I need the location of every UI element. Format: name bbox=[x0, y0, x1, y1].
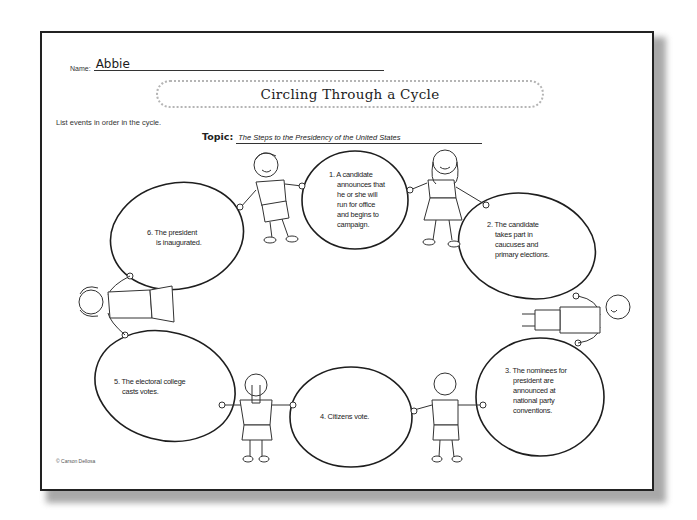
cycle-diagram bbox=[0, 0, 697, 520]
step-1-line: run for office bbox=[329, 200, 385, 210]
step-6-text: 6. The president is inaugurated. bbox=[147, 228, 201, 248]
step-2-line: primary elections. bbox=[487, 250, 549, 260]
step-3-line: announced at bbox=[505, 386, 567, 396]
step-5-line: casts votes. bbox=[114, 387, 185, 397]
step-4-line: 4. Citizens vote. bbox=[320, 412, 369, 422]
step-2-text: 2. The candidate takes part in caucuses … bbox=[487, 220, 549, 260]
boy-figure-bottom-right bbox=[411, 373, 486, 462]
step-1-line: announces that bbox=[329, 180, 385, 190]
step-3-line: conventions. bbox=[505, 406, 567, 416]
step-3-text: 3. The nominees for president are announ… bbox=[505, 366, 567, 416]
girl-figure-top-right bbox=[407, 150, 489, 247]
step-1-line: 1. A candidate bbox=[329, 170, 385, 180]
step-6-line: is inaugurated. bbox=[147, 238, 201, 248]
girl-figure-bottom-left bbox=[219, 374, 296, 462]
step-4-text: 4. Citizens vote. bbox=[320, 412, 369, 422]
step-2-line: caucuses and bbox=[487, 240, 549, 250]
step-6-line: 6. The president bbox=[147, 228, 201, 238]
step-2-line: 2. The candidate bbox=[487, 220, 549, 230]
step-5-line: 5. The electoral college bbox=[114, 377, 185, 387]
step-3-line: 3. The nominees for bbox=[505, 366, 567, 376]
copyright: © Carson Dellosa bbox=[56, 458, 95, 464]
step-1-line: and begins to bbox=[329, 210, 385, 220]
girl-figure-left bbox=[79, 273, 174, 338]
step-1-line: he or she will bbox=[329, 190, 385, 200]
step-1-text: 1. A candidate announces that he or she … bbox=[329, 170, 385, 230]
step-5-text: 5. The electoral college casts votes. bbox=[114, 377, 185, 397]
boy-figure-top-left bbox=[237, 153, 305, 243]
step-2-line: takes part in bbox=[487, 230, 549, 240]
step-3-line: national party bbox=[505, 396, 567, 406]
step-1-line: campaign. bbox=[329, 220, 385, 230]
step-3-line: president are bbox=[505, 376, 567, 386]
